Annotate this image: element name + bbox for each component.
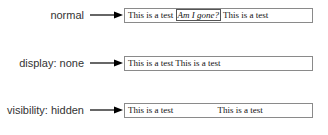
box-text: This is a test This is a test	[128, 58, 221, 68]
row-visibility-hidden: visibility: hidden This is a test This i…	[0, 103, 328, 119]
target-span: Am I gone?	[176, 9, 222, 21]
arrow-icon	[90, 62, 124, 64]
label-normal: normal	[50, 8, 84, 22]
text-after: This is a test	[223, 10, 268, 20]
label-visibility-hidden: visibility: hidden	[7, 103, 84, 117]
demo-box-display-none: This is a test This is a test	[124, 56, 313, 71]
demo-box-normal: This is a test Am I gone? This is a test	[124, 8, 313, 23]
row-normal: normal This is a test Am I gone? This is…	[0, 8, 328, 24]
row-display-none: display: none This is a test This is a t…	[0, 56, 328, 72]
demo-box-visibility-hidden: This is a test This is a test	[124, 103, 313, 118]
text-after: This is a test	[218, 105, 263, 115]
label-display-none: display: none	[19, 56, 84, 70]
arrow-icon	[90, 109, 124, 111]
text-before: This is a test	[128, 105, 173, 115]
text-before: This is a test	[128, 10, 173, 20]
arrow-icon	[90, 14, 124, 16]
